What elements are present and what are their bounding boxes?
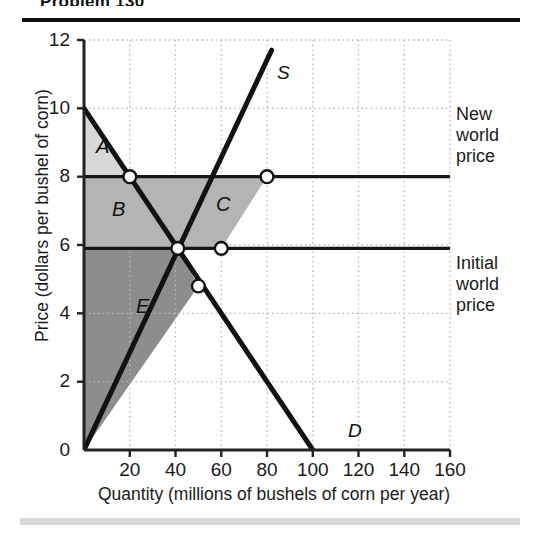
y-axis-title: Price (dollars per bushel of corn) — [32, 86, 53, 346]
x-tick-label-20: 20 — [110, 459, 150, 481]
x-tick-label-120: 120 — [339, 459, 379, 481]
x-tick-label-100: 100 — [293, 459, 333, 481]
region-e-shape — [84, 248, 198, 450]
marker-demand-at-new-price — [261, 170, 274, 183]
x-tick-label-60: 60 — [201, 459, 241, 481]
x-tick-label-140: 140 — [384, 459, 424, 481]
new-world-price-annotation: New world price — [456, 104, 499, 167]
initial-world-price-line-2: world — [456, 274, 499, 295]
chart-plot-area: 12 10 8 6 4 2 0 20 40 60 80 100 120 140 … — [0, 0, 541, 535]
demand-curve-label: D — [348, 420, 362, 442]
region-c-label: C — [216, 193, 230, 216]
x-tick-label-80: 80 — [247, 459, 287, 481]
region-b-label: B — [112, 198, 125, 221]
y-tick-label-12: 12 — [36, 29, 70, 51]
bottom-gray-bar — [20, 518, 520, 525]
marker-supply-at-initial-price — [171, 242, 184, 255]
region-a-label: A — [96, 135, 109, 158]
supply-curve-label: S — [277, 62, 290, 84]
x-tick-label-160: 160 — [430, 459, 470, 481]
marker-supply-at-new-price — [123, 170, 136, 183]
initial-world-price-annotation: Initial world price — [456, 253, 499, 316]
y-tick-label-0: 0 — [36, 439, 70, 461]
region-e-label: E — [136, 295, 149, 318]
marker-demand-at-initial-price — [215, 242, 228, 255]
initial-world-price-line-1: Initial — [456, 253, 499, 274]
x-axis-title: Quantity (millions of bushels of corn pe… — [84, 484, 464, 505]
new-world-price-line-3: price — [456, 146, 499, 167]
new-world-price-line-1: New — [456, 104, 499, 125]
y-tick-label-2: 2 — [36, 370, 70, 392]
new-world-price-line-2: world — [456, 125, 499, 146]
x-tick-label-40: 40 — [156, 459, 196, 481]
marker-domestic-equilibrium — [192, 280, 205, 293]
initial-world-price-line-3: price — [456, 295, 499, 316]
figure-panel: Problem 130 — [0, 0, 541, 535]
